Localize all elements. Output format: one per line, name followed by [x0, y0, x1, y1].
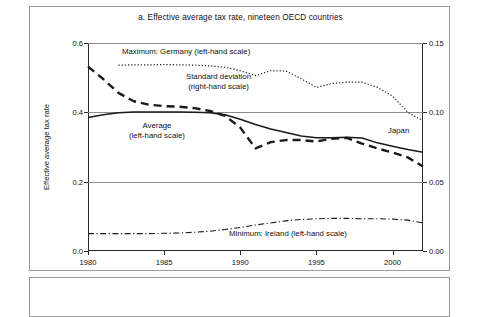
x-axis-tick-mark: [88, 251, 89, 255]
annotation-maximum-germany: Maximum: Germany (left-hand scale): [122, 47, 250, 57]
y-axis-left-label: Effective average tax rate: [42, 104, 51, 190]
x-axis-tick-mark: [240, 251, 241, 255]
annotation-japan: Japan: [388, 126, 409, 136]
y-axis-left-tick-label: 0.6: [72, 39, 83, 48]
x-axis-tick-label: 1990: [232, 258, 249, 267]
x-axis-tick-mark: [164, 251, 165, 255]
y-axis-right-tick-label: 0.15: [429, 39, 444, 48]
annotation-minimum-ireland: Minimum: Ireland (left-hand scale): [229, 229, 347, 239]
x-axis-tick-label: 1980: [80, 258, 97, 267]
annotation-average-line1: Average: [129, 121, 185, 131]
x-axis-tick-label: 1995: [308, 258, 325, 267]
x-axis-tick-mark: [393, 251, 394, 255]
y-axis-left-tick-label: 0.2: [72, 177, 83, 186]
y-axis-right-tick-mark: [423, 112, 427, 113]
x-axis-tick-label: 1985: [156, 258, 173, 267]
series-lines: [88, 43, 423, 251]
plot-area: 0.00.20.40.6 0.000.050.100.15 1980198519…: [88, 43, 423, 251]
chart-title: a. Effective average tax rate, nineteen …: [0, 13, 481, 22]
y-axis-right-tick-label: 0.10: [429, 108, 444, 117]
y-axis-right-tick-mark: [423, 182, 427, 183]
series-line-dashed: [88, 67, 423, 167]
y-axis-right-tick-label: 0.00: [429, 247, 444, 256]
y-axis-right-tick-mark: [423, 43, 427, 44]
x-axis-tick-label: 2000: [384, 258, 401, 267]
y-axis-right-tick-label: 0.05: [429, 177, 444, 186]
secondary-panel-border: [29, 277, 450, 317]
annotation-average: Average (left-hand scale): [129, 121, 185, 140]
annotation-stddev-line1: Standard deviation: [186, 72, 251, 82]
y-axis-right-tick-mark: [423, 251, 427, 252]
y-axis-left-tick-label: 0.4: [72, 108, 83, 117]
annotation-stddev-line2: (right-hand scale): [186, 82, 251, 92]
y-axis-left-tick-label: 0.0: [72, 247, 83, 256]
annotation-stddev: Standard deviation (right-hand scale): [186, 72, 251, 91]
x-axis-tick-mark: [316, 251, 317, 255]
annotation-average-line2: (left-hand scale): [129, 131, 185, 141]
